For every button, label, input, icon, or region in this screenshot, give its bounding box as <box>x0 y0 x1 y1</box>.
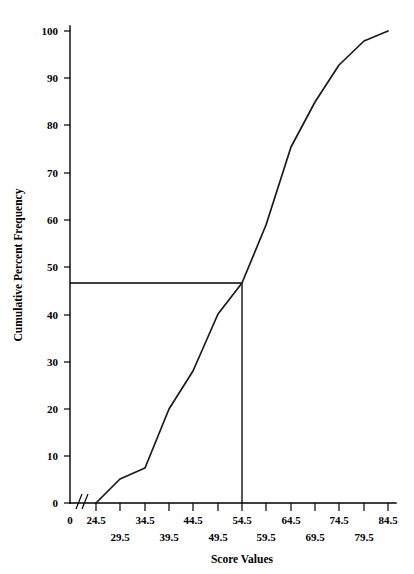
axis-group <box>70 26 396 503</box>
y-tick-70: 70 <box>47 167 70 179</box>
x-tick-34-5: 34.5 <box>135 503 155 526</box>
x-tick-group: 24.5 29.5 34.5 39.5 44.5 49.5 <box>86 503 398 543</box>
y-tick-label: 60 <box>47 214 59 226</box>
x-tick-69-5: 69.5 <box>305 503 325 543</box>
x-tick-74-5: 74.5 <box>329 503 349 526</box>
x-tick-29-5: 29.5 <box>110 503 130 543</box>
axis-break-icon <box>76 494 88 509</box>
x-tick-49-5: 49.5 <box>208 503 228 543</box>
x-tick-label: 59.5 <box>256 531 276 543</box>
x-tick-64-5: 64.5 <box>281 503 301 526</box>
x-tick-label: 44.5 <box>183 514 203 526</box>
y-tick-label: 10 <box>47 450 59 462</box>
x-tick-label: 74.5 <box>329 514 349 526</box>
x-tick-24-5: 24.5 <box>86 503 106 526</box>
y-tick-100: 100 <box>42 25 71 37</box>
y-tick-label: 0 <box>53 497 59 509</box>
y-axis-title: Cumulative Percent Frequency <box>12 188 25 341</box>
y-tick-10: 10 <box>47 450 70 462</box>
x-tick-label: 79.5 <box>354 531 374 543</box>
ogive-chart: 0 10 20 30 40 50 <box>0 0 414 574</box>
y-tick-label: 80 <box>47 119 59 131</box>
y-tick-0: 0 <box>53 497 71 509</box>
y-tick-group: 0 10 20 30 40 50 <box>42 25 71 509</box>
chart-container: 0 10 20 30 40 50 <box>0 0 414 574</box>
x-tick-44-5: 44.5 <box>183 503 203 526</box>
y-tick-50: 50 <box>47 261 70 273</box>
x-tick-label: 39.5 <box>159 531 179 543</box>
x-tick-39-5: 39.5 <box>159 503 179 543</box>
y-tick-label: 40 <box>47 309 59 321</box>
y-tick-label: 70 <box>47 167 59 179</box>
y-tick-label: 50 <box>47 261 59 273</box>
y-tick-label: 100 <box>42 25 59 37</box>
x-tick-label: 54.5 <box>232 514 252 526</box>
x-tick-label: 49.5 <box>208 531 228 543</box>
x-tick-label: 69.5 <box>305 531 325 543</box>
y-tick-label: 90 <box>47 72 59 84</box>
y-tick-label: 30 <box>47 356 59 368</box>
y-tick-40: 40 <box>47 309 70 321</box>
x-tick-label: 24.5 <box>86 514 106 526</box>
y-tick-30: 30 <box>47 356 70 368</box>
y-tick-60: 60 <box>47 214 70 226</box>
x-tick-54-5: 54.5 <box>232 503 252 526</box>
x-tick-label: 84.5 <box>378 514 398 526</box>
x-axis-title: Score Values <box>211 553 274 565</box>
y-tick-20: 20 <box>47 403 70 415</box>
x-tick-label: 34.5 <box>135 514 155 526</box>
y-tick-label: 20 <box>47 403 59 415</box>
x-tick-79-5: 79.5 <box>354 503 374 543</box>
x-tick-label: 64.5 <box>281 514 301 526</box>
x-tick-59-5: 59.5 <box>256 503 276 543</box>
x-origin-label: 0 <box>67 514 73 526</box>
y-tick-90: 90 <box>47 72 70 84</box>
y-tick-80: 80 <box>47 119 70 131</box>
x-tick-label: 29.5 <box>110 531 130 543</box>
x-tick-84-5: 84.5 <box>378 503 398 526</box>
